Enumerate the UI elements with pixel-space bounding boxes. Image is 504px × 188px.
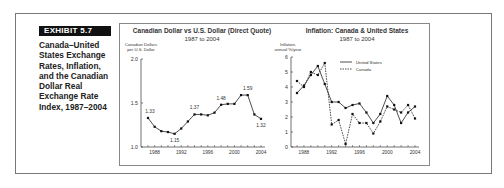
y-tick-label: 1 — [285, 129, 288, 135]
data-marker — [344, 143, 346, 145]
data-marker — [200, 113, 202, 115]
x-tick-label: 2004 — [256, 150, 267, 155]
data-marker — [227, 103, 229, 105]
data-marker — [379, 120, 381, 122]
data-label: 1.37 — [190, 105, 200, 110]
data-marker — [407, 111, 409, 113]
y-axis-label: annual %/year — [275, 47, 302, 52]
data-marker — [310, 74, 312, 76]
data-marker — [372, 132, 374, 134]
x-tick-label: 1992 — [326, 150, 337, 155]
data-marker — [296, 80, 298, 82]
data-marker — [207, 114, 209, 116]
data-marker — [331, 101, 333, 103]
data-marker — [324, 83, 326, 85]
data-marker — [331, 123, 333, 125]
data-marker — [358, 122, 360, 124]
data-label: 1.33 — [145, 109, 155, 114]
data-marker — [324, 62, 326, 64]
y-axis-label: per U.S. Dollar — [127, 47, 155, 52]
x-tick-label: 1988 — [149, 150, 160, 155]
x-tick-label: 1996 — [354, 150, 365, 155]
data-marker — [240, 94, 242, 96]
data-marker — [400, 111, 402, 113]
y-tick-label: 2.0 — [131, 56, 138, 62]
data-marker — [303, 86, 305, 88]
data-marker — [187, 120, 189, 122]
chart-subtitle: 1987 to 2004 — [184, 36, 220, 42]
y-tick-label: 1.5 — [131, 100, 138, 106]
data-marker — [260, 118, 262, 120]
y-tick-label: 0 — [285, 144, 288, 150]
data-marker — [160, 130, 162, 132]
data-marker — [351, 104, 353, 106]
data-marker — [393, 108, 395, 110]
data-marker — [338, 119, 340, 121]
inflation-chart: Inflation: Canada & United States 1987 t… — [275, 27, 421, 155]
data-marker — [296, 92, 298, 94]
x-tick-label: 2000 — [382, 150, 393, 155]
legend-canada: Canada — [356, 67, 372, 72]
data-marker — [407, 104, 409, 106]
series-line — [297, 66, 415, 123]
series-line — [297, 63, 415, 144]
legend-us: United States — [356, 60, 382, 65]
data-marker — [372, 122, 374, 124]
x-tick-label: 1988 — [299, 150, 310, 155]
data-marker — [414, 105, 416, 107]
data-marker — [220, 104, 222, 106]
data-marker — [379, 113, 381, 115]
data-marker — [386, 95, 388, 97]
data-marker — [253, 113, 255, 115]
y-tick-label: 5 — [285, 69, 288, 75]
y-tick-label: 6 — [285, 54, 288, 60]
chart-title: Canadian Dollar vs U.S. Dollar (Direct Q… — [133, 27, 271, 35]
data-marker — [167, 131, 169, 133]
data-marker — [193, 113, 195, 115]
data-marker — [154, 126, 156, 128]
data-marker — [414, 117, 416, 119]
data-marker — [358, 102, 360, 104]
x-tick-label: 2000 — [229, 150, 240, 155]
legend: United States Canada — [340, 60, 382, 72]
data-marker — [317, 74, 319, 76]
exchange-rate-chart: Canadian Dollar vs U.S. Dollar (Direct Q… — [125, 27, 271, 155]
data-marker — [213, 112, 215, 114]
data-label: 1.48 — [216, 96, 226, 101]
data-marker — [233, 103, 235, 105]
data-marker — [365, 122, 367, 124]
data-marker — [338, 101, 340, 103]
chart-subtitle: 1987 to 2004 — [339, 36, 375, 42]
y-tick-label: 3 — [285, 99, 288, 105]
y-tick-label: 2 — [285, 114, 288, 120]
data-marker — [351, 113, 353, 115]
x-tick-label: 1996 — [202, 150, 213, 155]
data-marker — [393, 104, 395, 106]
data-marker — [147, 117, 149, 119]
data-marker — [400, 122, 402, 124]
chart-title: Inflation: Canada & United States — [306, 27, 409, 34]
data-label: 1.59 — [243, 86, 253, 91]
series-line — [148, 95, 261, 134]
data-marker — [173, 133, 175, 135]
y-tick-label: 4 — [285, 84, 288, 90]
x-tick-label: 1992 — [176, 150, 187, 155]
data-marker — [365, 111, 367, 113]
data-marker — [310, 71, 312, 73]
data-label: 1.15 — [170, 138, 180, 143]
charts-svg: Canadian Dollar vs U.S. Dollar (Direct Q… — [0, 0, 504, 188]
y-tick-label: 1.0 — [131, 144, 138, 150]
data-marker — [247, 94, 249, 96]
data-marker — [317, 65, 319, 67]
data-marker — [344, 107, 346, 109]
data-marker — [180, 127, 182, 129]
data-marker — [386, 105, 388, 107]
x-tick-label: 2004 — [410, 150, 421, 155]
data-label: 1.32 — [256, 123, 266, 128]
